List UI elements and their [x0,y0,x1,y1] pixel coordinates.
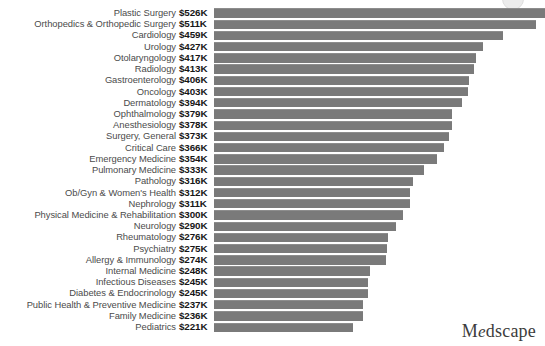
bar-track [214,232,545,241]
bar [214,289,368,298]
bar-value-label: $373K [176,131,214,141]
bar-category-label: Public Health & Preventive Medicine [0,300,176,310]
bar-value-label: $274K [176,255,214,265]
bar-category-label: Pathology [0,176,176,186]
bar-row: Radiology$413K [0,64,545,75]
bar-value-label: $312K [176,188,214,198]
bar [214,20,536,29]
bar-row: Oncology$403K [0,87,545,98]
bar [214,165,424,174]
bar-category-label: Diabetes & Endocrinology [0,288,176,298]
bar-track [214,143,545,152]
bar-track [214,277,545,286]
bar-track [214,221,545,230]
bar-value-label: $236K [176,311,214,321]
bar-value-label: $290K [176,221,214,231]
bar-row: Otolaryngology$417K [0,53,545,64]
bar-category-label: Infectious Diseases [0,277,176,287]
bar-value-label: $245K [176,288,214,298]
bar-track [214,42,545,51]
bar [214,199,410,208]
bar-track [214,109,545,118]
bar [214,154,437,163]
bar-value-label: $406K [176,75,214,85]
bar [214,98,462,107]
bar [214,31,503,40]
bar [214,132,449,141]
bar-track [214,311,545,320]
bar-track [214,154,545,163]
bar-category-label: Pulmonary Medicine [0,165,176,175]
bar-track [214,300,545,309]
bar-category-label: Gastroenterology [0,75,176,85]
bar-value-label: $276K [176,232,214,242]
bar-row: Dermatology$394K [0,98,545,109]
bar-value-label: $275K [176,244,214,254]
bar-value-label: $354K [176,154,214,164]
bar [214,300,363,309]
bar [214,210,403,219]
bar-track [214,199,545,208]
bar [214,255,386,264]
bar-track [214,98,545,107]
logo-accent-letter: e [478,322,486,341]
bar-category-label: Family Medicine [0,311,176,321]
medscape-logo: Medscape [462,321,536,342]
bar-row: Psychiatry$275K [0,244,545,255]
bar [214,188,410,197]
bar [214,121,452,130]
bar-value-label: $333K [176,165,214,175]
bar-category-label: Otolaryngology [0,53,176,63]
bar [214,87,468,96]
bar-row: Allergy & Immunology$274K [0,255,545,266]
bar-row: Ophthalmology$379K [0,109,545,120]
bar-track [214,288,545,297]
bar-row: Ob/Gyn & Women's Health$312K [0,188,545,199]
bar [214,53,476,62]
bar-category-label: Plastic Surgery [0,8,176,18]
bar-value-label: $526K [176,8,214,18]
bar-category-label: Nephrology [0,199,176,209]
bar-row: Surgery, General$373K [0,131,545,142]
bar-category-label: Cardiology [0,30,176,40]
bar-track [214,176,545,185]
bar-row: Neurology$290K [0,221,545,232]
bar [214,8,545,17]
bar-value-label: $511K [176,19,214,29]
bar-row: Emergency Medicine$354K [0,154,545,165]
bar-row: Critical Care$366K [0,143,545,154]
bar-category-label: Radiology [0,64,176,74]
logo-lead-letter: M [462,321,478,341]
bar-chart-rows: Plastic Surgery$526KOrthopedics & Orthop… [0,8,545,333]
bar-category-label: Critical Care [0,143,176,153]
bar [214,109,452,118]
bar-category-label: Internal Medicine [0,266,176,276]
bar-track [214,244,545,253]
bar-value-label: $316K [176,176,214,186]
bar-row: Public Health & Preventive Medicine$237K [0,300,545,311]
bar [214,143,444,152]
bar-category-label: Oncology [0,87,176,97]
bar [214,42,483,51]
bar-value-label: $248K [176,266,214,276]
bar-track [214,30,545,39]
bar-track [214,266,545,275]
bar-category-label: Orthopedics & Orthopedic Surgery [0,19,176,29]
bar [214,222,396,231]
bar-row: Orthopedics & Orthopedic Surgery$511K [0,19,545,30]
bar-value-label: $237K [176,300,214,310]
bar-value-label: $394K [176,98,214,108]
bar [214,311,363,320]
bar-value-label: $378K [176,120,214,130]
bar [214,64,474,73]
bar-track [214,131,545,140]
bar-track [214,255,545,264]
bar-track [214,210,545,219]
bar-category-label: Rheumatology [0,232,176,242]
logo-tail-letters: dscape [486,321,536,341]
bar-track [214,165,545,174]
bar-category-label: Physical Medicine & Rehabilitation [0,210,176,220]
bar-track [214,188,545,197]
bar-value-label: $413K [176,64,214,74]
bar [214,233,388,242]
